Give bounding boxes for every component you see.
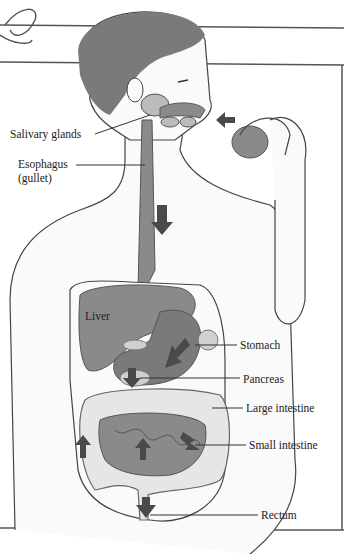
label-stomach: Stomach bbox=[240, 339, 280, 352]
label-esophagus: Esophagus bbox=[18, 158, 68, 171]
label-rectum: Rectum bbox=[261, 509, 297, 522]
label-large-intestine: Large intestine bbox=[246, 402, 314, 415]
ribbon-decoration bbox=[0, 9, 36, 43]
label-esophagus-gullet: (gullet) bbox=[18, 172, 52, 185]
label-salivary-glands: Salivary glands bbox=[10, 128, 81, 141]
label-small-intestine: Small intestine bbox=[249, 439, 318, 452]
apple bbox=[232, 126, 268, 158]
arrow-into-mouth bbox=[216, 112, 235, 128]
label-pancreas: Pancreas bbox=[243, 373, 284, 386]
arm-outline bbox=[270, 117, 306, 324]
digestive-system-illustration bbox=[0, 0, 344, 554]
label-liver: Liver bbox=[85, 310, 110, 323]
